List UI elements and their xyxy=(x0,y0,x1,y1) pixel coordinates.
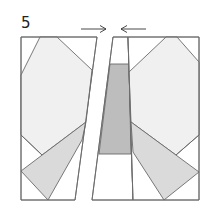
left-section xyxy=(21,37,97,200)
right-section xyxy=(128,37,199,200)
piecing-diagram xyxy=(0,0,211,215)
center-strip xyxy=(92,37,133,200)
arrow-left-icon xyxy=(121,26,146,33)
arrow-right-icon xyxy=(81,26,106,33)
